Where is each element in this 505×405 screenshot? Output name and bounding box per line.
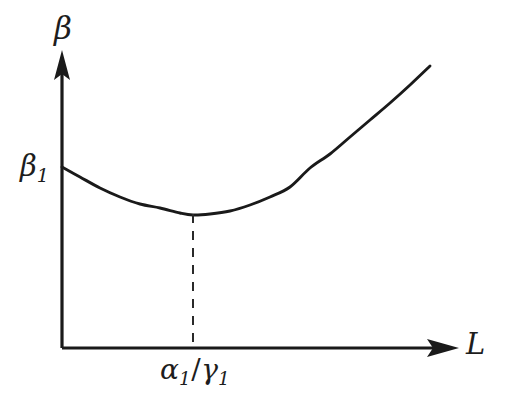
- figure-canvas: β β1 α1/γ1 L: [0, 0, 505, 405]
- y-intercept-label: β1: [20, 152, 49, 181]
- tick-denominator-subscript: 1: [218, 368, 230, 389]
- tick-numerator-subscript: 1: [179, 368, 191, 389]
- x-axis-label: L: [466, 330, 485, 359]
- x-axis-tick-label: α1/γ1: [160, 356, 230, 384]
- tick-denominator-symbol: γ: [201, 353, 218, 386]
- tick-separator: /: [191, 353, 202, 386]
- y-axis-label: β: [54, 13, 72, 44]
- beta-curve: [62, 66, 430, 215]
- y-intercept-symbol: β: [20, 149, 37, 183]
- tick-numerator-symbol: α: [160, 353, 179, 386]
- plot-area: [0, 0, 505, 405]
- y-intercept-subscript: 1: [37, 164, 49, 187]
